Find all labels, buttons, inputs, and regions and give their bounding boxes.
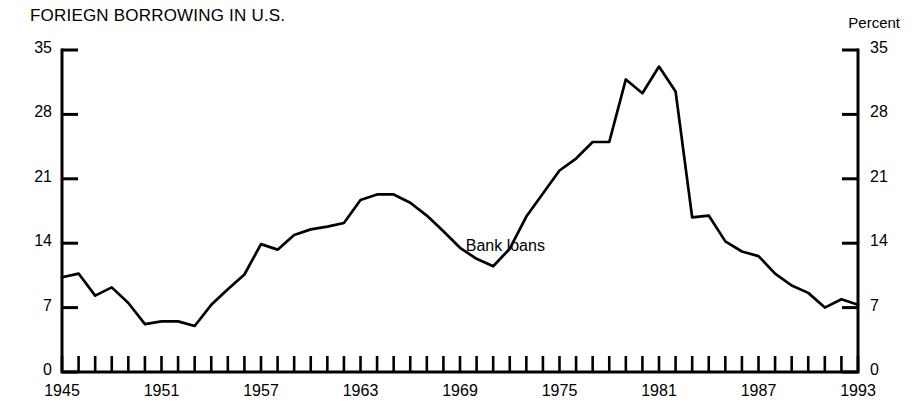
x-axis-tick-label: 1981: [629, 382, 689, 400]
y-axis-tick-label-left: 0: [43, 361, 52, 379]
y-axis-tick-label-right: 0: [870, 361, 879, 379]
x-axis-tick-label: 1993: [828, 382, 888, 400]
y-axis-tick-label-left: 28: [34, 103, 52, 121]
y-axis-tick-label-left: 21: [34, 168, 52, 186]
y-axis-tick-label-right: 14: [870, 232, 888, 250]
y-axis-tick-label-left: 7: [43, 297, 52, 315]
chart-container: FORIEGN BORROWING IN U.S. Percent 071421…: [0, 0, 924, 416]
x-axis-tick-label: 1969: [430, 382, 490, 400]
x-axis-tick-label: 1945: [32, 382, 92, 400]
x-axis-tick-label: 1951: [132, 382, 192, 400]
series-line-0: [62, 67, 858, 326]
x-axis-tick-label: 1987: [729, 382, 789, 400]
y-axis-tick-label-right: 28: [870, 103, 888, 121]
series-annotation-label: Bank loans: [466, 237, 545, 255]
plot-area: [0, 0, 924, 416]
y-axis-tick-label-left: 35: [34, 39, 52, 57]
x-axis-tick-label: 1975: [530, 382, 590, 400]
y-axis-tick-label-right: 35: [870, 39, 888, 57]
data-series: [62, 67, 858, 326]
x-axis-tick-label: 1957: [231, 382, 291, 400]
x-axis-tick-label: 1963: [331, 382, 391, 400]
y-axis-tick-label-left: 14: [34, 232, 52, 250]
y-axis-tick-label-right: 21: [870, 168, 888, 186]
y-axis-tick-label-right: 7: [870, 297, 879, 315]
